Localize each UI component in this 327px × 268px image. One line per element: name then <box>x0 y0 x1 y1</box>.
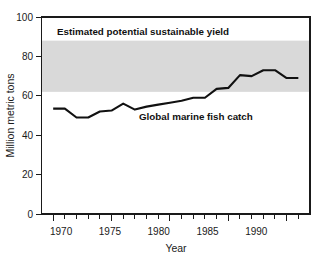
y-tick-label-20: 20 <box>22 169 34 180</box>
fish-catch-line-chart: 100 80 60 40 20 0 Million metric tons 19… <box>0 0 327 268</box>
y-tick-label-60: 60 <box>22 90 34 101</box>
band-annotation-label: Estimated potential sustainable yield <box>57 26 229 37</box>
chart-figure: 100 80 60 40 20 0 Million metric tons 19… <box>0 0 327 268</box>
sustainable-yield-band <box>42 41 311 92</box>
y-axis-title: Million metric tons <box>4 73 16 157</box>
y-tick-label-100: 100 <box>16 12 33 23</box>
y-tick-label-0: 0 <box>27 209 33 220</box>
series-annotation-label: Global marine fish catch <box>139 111 253 122</box>
y-tick-label-80: 80 <box>22 51 34 62</box>
x-tick-label-1990: 1990 <box>245 226 268 237</box>
x-tick-label-1985: 1985 <box>196 226 219 237</box>
x-axis-minor-ticks <box>65 214 298 219</box>
x-tick-label-1980: 1980 <box>148 226 171 237</box>
y-axis-ticks <box>36 17 42 214</box>
x-tick-label-1975: 1975 <box>99 226 122 237</box>
x-tick-label-1970: 1970 <box>50 226 73 237</box>
x-axis-labels: 1970 1975 1980 1985 1990 <box>50 226 268 237</box>
band-rect <box>42 41 311 92</box>
y-axis-labels: 100 80 60 40 20 0 <box>16 12 33 220</box>
x-axis-title: Year <box>165 242 187 254</box>
y-tick-label-40: 40 <box>22 130 34 141</box>
